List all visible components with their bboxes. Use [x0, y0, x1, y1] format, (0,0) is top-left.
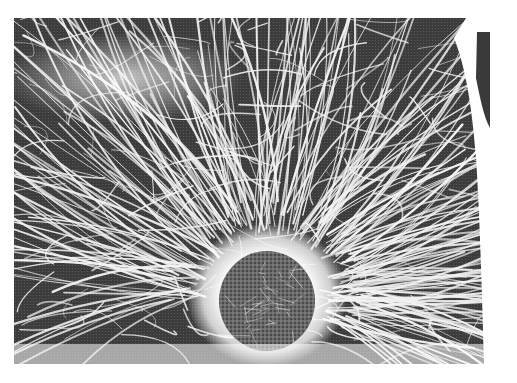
top-glow: [14, 33, 244, 123]
nucleus: [219, 251, 315, 351]
micrograph: [14, 18, 502, 364]
caption: [0, 370, 517, 383]
bottom-fade: [14, 344, 502, 364]
